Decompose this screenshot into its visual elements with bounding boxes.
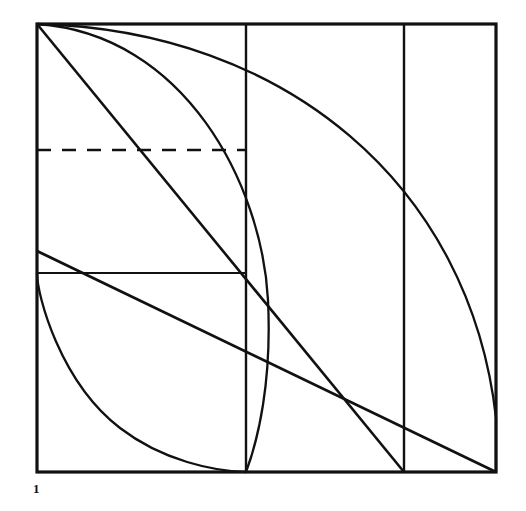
outer-square-frame [37,24,496,472]
figure-root: 1 [0,0,526,511]
arc-medium-corner [37,24,269,472]
arc-large-corner [37,24,496,472]
figure-caption: 1 [33,482,40,495]
geometry-diagram [0,0,526,511]
diagonal-steep [37,24,404,472]
